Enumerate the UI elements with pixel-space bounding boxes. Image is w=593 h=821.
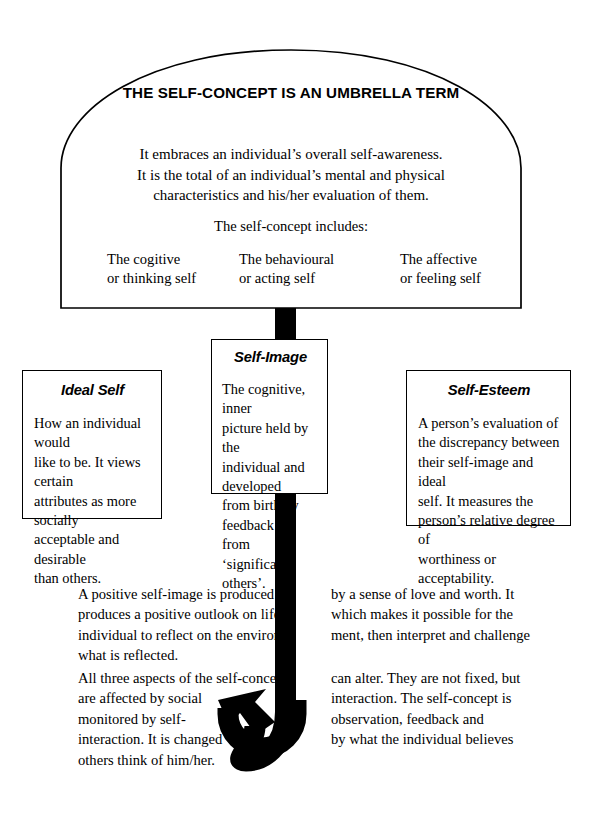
box-ideal-self-title: Ideal Self [34, 382, 151, 398]
paragraph-1-left-column: A positive self-image is produced produc… [78, 584, 293, 666]
box-self-esteem: Self-Esteem A person’s evaluation of the… [406, 370, 571, 526]
box-self-esteem-title: Self-Esteem [418, 382, 560, 398]
box-ideal-self-body: How an individual would like to be. It v… [34, 414, 151, 589]
aspect-affective: The affective or feeling self [355, 250, 512, 288]
aspect-cognitive: The cogitive or thinking self [70, 250, 223, 288]
box-self-image-body: The cognitive, inner picture held by the… [222, 380, 319, 593]
paragraph-2-right-column: can alter. They are not fixed, but inter… [331, 668, 556, 750]
box-ideal-self: Ideal Self How an individual would like … [22, 370, 162, 519]
canopy-body-text: It embraces an individual’s overall self… [70, 144, 512, 206]
box-self-image-title: Self-Image [222, 349, 319, 365]
box-self-image: Self-Image The cognitive, inner picture … [211, 339, 328, 494]
diagram-page: THE SELF-CONCEPT IS AN UMBRELLA TERM It … [0, 0, 593, 821]
box-self-esteem-body: A person’s evaluation of the discrepancy… [418, 414, 560, 589]
canopy-title: THE SELF-CONCEPT IS AN UMBRELLA TERM [90, 82, 492, 104]
umbrella-shaft-upper [275, 308, 296, 341]
paragraph-1-right-column: by a sense of love and worth. It which m… [331, 584, 556, 645]
canopy-aspects-row: The cogitive or thinking self The behavi… [70, 250, 512, 288]
canopy-includes-label: The self-concept includes: [70, 218, 512, 235]
aspect-behavioural: The behavioural or acting self [223, 250, 355, 288]
paragraph-2-left-column: All three aspects of the self-concept ar… [78, 668, 293, 770]
